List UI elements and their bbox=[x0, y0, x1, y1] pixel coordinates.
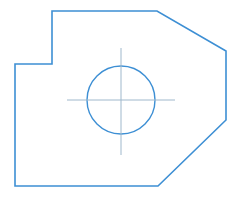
cad-drawing-svg bbox=[0, 0, 242, 218]
cad-drawing-canvas[interactable] bbox=[0, 0, 242, 218]
